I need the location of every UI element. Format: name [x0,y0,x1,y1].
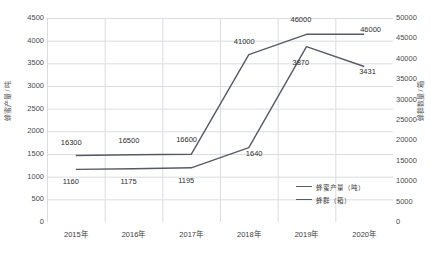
y-axis-right-ticks: 0500010000150002000025000300003500040000… [396,0,431,259]
x-axis-ticks: 2015年2016年2017年2018年2019年2020年 [47,228,393,244]
y-axis-left-ticks: 050010001500200025003000350040004500 [0,0,44,259]
y-tick-label-right: 30000 [396,96,417,104]
y-tick-label-right: 45000 [396,34,417,42]
y-tick-label-right: 25000 [396,116,417,124]
y-tick-label-left: 4000 [27,37,44,45]
data-point-label: 16500 [119,137,140,145]
chart-legend: 蜂蜜产量（吨） 蜂群（箱） [296,180,392,206]
x-tick-label: 2015年 [47,228,105,244]
legend-item-honey[interactable]: 蜂蜜产量（吨） [296,180,392,193]
y-tick-label-right: 10000 [396,177,417,185]
y-tick-label-left: 0 [40,218,44,226]
y-tick-label-left: 500 [31,195,44,203]
x-tick-label: 2016年 [105,228,163,244]
y-tick-label-right: 35000 [396,75,417,83]
y-tick-label-left: 1500 [27,150,44,158]
y-tick-label-right: 0 [396,218,400,226]
x-tick-label: 2017年 [162,228,220,244]
y-tick-label-right: 5000 [396,198,413,206]
data-point-label: 46000 [291,16,312,24]
legend-item-colonies[interactable]: 蜂群（箱） [296,193,392,206]
y-tick-label-right: 20000 [396,136,417,144]
legend-item-label: 蜂群（箱） [316,195,351,205]
data-point-label: 1195 [178,177,194,185]
y-tick-label-left: 2500 [27,105,44,113]
y-tick-label-right: 40000 [396,55,417,63]
y-tick-label-left: 1000 [27,173,44,181]
x-tick-label: 2018年 [220,228,278,244]
data-point-label: 16300 [61,139,82,147]
data-point-label: 41000 [234,38,255,46]
y-tick-label-left: 3500 [27,59,44,67]
legend-line-icon [296,199,312,200]
y-tick-label-left: 4500 [27,14,44,22]
y-tick-label-left: 2000 [27,127,44,135]
data-point-label: 1640 [246,150,263,158]
y-tick-label-right: 15000 [396,157,417,165]
data-point-label: 3870 [293,59,310,67]
data-point-label: 1160 [63,178,79,186]
y-tick-label-right: 50000 [396,14,417,22]
y-tick-label-left: 3000 [27,82,44,90]
data-point-label: 46000 [360,26,381,34]
data-point-label: 1175 [121,178,137,186]
data-point-label: 16600 [176,136,197,144]
honey-production-line-chart: 蜂蜜产量 / 吨 蜂群数量 / 箱 0500100015002000250030… [0,0,431,259]
data-point-label: 3431 [359,68,376,76]
legend-line-icon [296,186,312,187]
x-tick-label: 2020年 [335,228,393,244]
legend-item-label: 蜂蜜产量（吨） [316,182,365,192]
x-tick-label: 2019年 [278,228,336,244]
